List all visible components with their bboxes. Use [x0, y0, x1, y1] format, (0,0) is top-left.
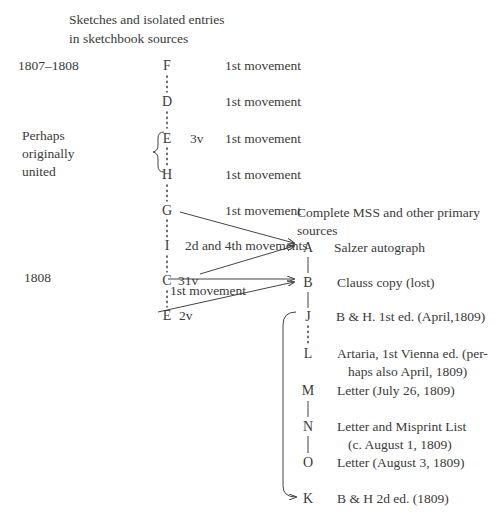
primary-desc-k: B & H 2d ed. (1809) — [337, 491, 449, 507]
bracket-note-line2: originally — [22, 146, 75, 162]
primary-letter-a: A — [301, 240, 315, 256]
sketch-letter-e1: E — [160, 131, 174, 147]
primary-letter-j: J — [301, 309, 315, 325]
arrow-label-1st-movement: 1st movement — [170, 283, 246, 299]
primary-desc-n-line1: Letter and Misprint List — [337, 419, 466, 435]
right-header-line2: sources — [297, 223, 338, 239]
sketch-folio-e1: 3v — [190, 131, 204, 147]
primary-desc-l-line1: Artaria, 1st Vienna ed. (per- — [337, 346, 488, 362]
sketch-desc-e1: 1st movement — [225, 131, 301, 147]
primary-desc-b: Clauss copy (lost) — [337, 275, 435, 291]
right-header-line1: Complete MSS and other primary — [297, 205, 480, 221]
right-header-text: Complete MSS and other primary — [297, 205, 480, 220]
arrow-j-to-k — [283, 312, 296, 497]
sketch-desc-h: 1st movement — [225, 167, 301, 183]
primary-letter-m: M — [301, 383, 315, 399]
left-header-line1: Sketches and isolated entries — [69, 12, 225, 28]
primary-letter-b: B — [301, 275, 315, 291]
sketch-folio-e2: 2v — [179, 308, 193, 324]
sketch-desc-g: 1st movement — [225, 203, 301, 219]
sketch-desc-f: 1st movement — [225, 58, 301, 74]
sketch-letter-g: G — [160, 203, 174, 219]
date-1807-1808: 1807–1808 — [18, 58, 79, 74]
left-header-line2: in sketchbook sources — [69, 31, 188, 47]
sketch-letter-h: H — [160, 167, 174, 183]
bracket-note-line3: united — [22, 164, 56, 180]
primary-desc-m: Letter (July 26, 1809) — [337, 383, 455, 399]
primary-letter-k: K — [301, 491, 315, 507]
primary-letter-l: L — [301, 346, 315, 362]
sketch-desc-d: 1st movement — [225, 94, 301, 110]
primary-desc-o: Letter (August 3, 1809) — [337, 455, 464, 471]
sketch-desc-i: 2d and 4th movements — [185, 238, 308, 254]
sketch-letter-d: D — [160, 94, 174, 110]
sketch-letter-f: F — [160, 58, 174, 74]
primary-desc-l-line2: haps also April, 1809) — [348, 364, 467, 380]
primary-letter-n: N — [301, 419, 315, 435]
primary-desc-j: B & H. 1st ed. (April,1809) — [336, 309, 485, 325]
date-1808: 1808 — [24, 270, 51, 286]
sketch-letter-e2: E — [160, 308, 174, 324]
primary-desc-n-line2: (c. August 1, 1809) — [348, 437, 452, 453]
sketch-letter-i: I — [160, 238, 174, 254]
primary-letter-o: O — [301, 455, 315, 471]
primary-desc-a: Salzer autograph — [334, 240, 425, 256]
bracket-note-line1: Perhaps — [22, 128, 65, 144]
